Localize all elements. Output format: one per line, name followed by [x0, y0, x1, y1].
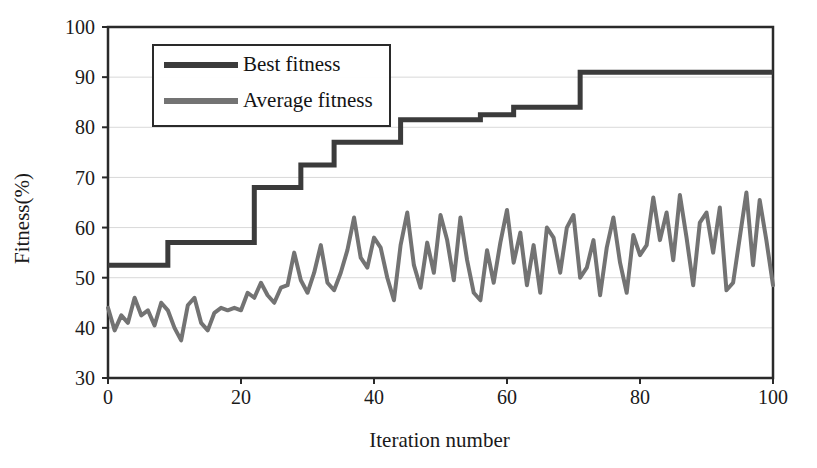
legend-item-best-fitness: Best fitness: [164, 54, 340, 75]
legend-label-best-fitness: Best fitness: [243, 54, 340, 75]
legend-label-average-fitness: Average fitness: [243, 90, 373, 111]
legend: Best fitness Average fitness: [152, 44, 391, 127]
fitness-convergence-chart: Fitness(%) Iteration number 100 90 80 70…: [0, 0, 817, 468]
plot-area: [0, 0, 817, 468]
legend-item-average-fitness: Average fitness: [164, 90, 373, 111]
legend-swatch-best-fitness: [164, 62, 238, 68]
series-line-average-fitness: [108, 192, 773, 340]
legend-swatch-average-fitness: [164, 98, 238, 104]
